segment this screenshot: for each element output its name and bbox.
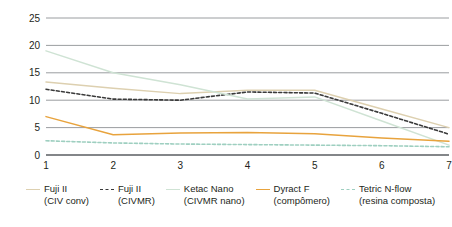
legend-label-line1: Dyract F — [274, 183, 310, 194]
legend-item-0[interactable]: Fuji II(CIV conv) — [26, 183, 89, 206]
y-tick-label-10: 10 — [29, 95, 41, 106]
x-tick-label-2: 2 — [110, 160, 116, 170]
legend-label-line1: Tetric N-flow — [359, 183, 411, 194]
chart-legend: Fuji II(CIV conv)Fuji II(CIVMR)Ketac Nan… — [0, 183, 452, 227]
legend-label-line2: (resina composta) — [359, 195, 435, 207]
x-tick-label-7: 7 — [446, 160, 452, 170]
x-axis-tick-labels: 1234567 — [43, 160, 452, 170]
x-tick-label-5: 5 — [312, 160, 318, 170]
line-chart: 0510152025 1234567 Fuji II(CIV conv)Fuji… — [0, 0, 452, 227]
x-tick-label-3: 3 — [178, 160, 184, 170]
x-tick-label-6: 6 — [379, 160, 385, 170]
legend-swatch-icon — [166, 183, 180, 196]
legend-item-2[interactable]: Ketac Nano(CIVMR nano) — [166, 183, 245, 206]
y-tick-label-20: 20 — [29, 40, 41, 51]
legend-label: Ketac Nano(CIVMR nano) — [184, 183, 245, 206]
y-tick-label-15: 15 — [29, 67, 41, 78]
y-tick-label-0: 0 — [34, 150, 40, 161]
plot-svg: 0510152025 1234567 — [0, 0, 452, 170]
legend-item-3[interactable]: Dyract F(compômero) — [256, 183, 331, 206]
legend-label-line1: Fuji II — [44, 183, 67, 194]
legend-item-1[interactable]: Fuji II(CIVMR) — [100, 183, 155, 206]
gridlines — [46, 18, 449, 155]
series-line-3 — [46, 117, 449, 142]
series-line-2 — [46, 51, 449, 145]
legend-row: Fuji II(CIV conv)Fuji II(CIVMR)Ketac Nan… — [0, 183, 452, 206]
legend-swatch-icon — [341, 183, 355, 196]
legend-item-4[interactable]: Tetric N-flow(resina composta) — [341, 183, 435, 206]
legend-swatch-icon — [256, 183, 270, 196]
legend-label: Fuji II(CIVMR) — [118, 183, 155, 206]
legend-label-line2: (compômero) — [274, 195, 331, 207]
legend-label-line2: (CIVMR) — [118, 195, 155, 207]
legend-label: Tetric N-flow(resina composta) — [359, 183, 435, 206]
y-tick-label-5: 5 — [34, 122, 40, 133]
legend-label-line1: Ketac Nano — [184, 183, 234, 194]
legend-label-line2: (CIVMR nano) — [184, 195, 245, 207]
legend-label: Dyract F(compômero) — [274, 183, 331, 206]
x-tick-label-4: 4 — [245, 160, 251, 170]
plot-area: 0510152025 1234567 — [0, 0, 452, 170]
legend-swatch-icon — [26, 183, 40, 196]
series-line-0 — [46, 82, 449, 127]
y-tick-label-25: 25 — [29, 13, 41, 24]
x-tick-label-1: 1 — [43, 160, 49, 170]
legend-swatch-icon — [100, 183, 114, 196]
legend-label: Fuji II(CIV conv) — [44, 183, 89, 206]
series-lines — [46, 51, 449, 147]
y-axis-tick-labels: 0510152025 — [29, 13, 41, 161]
series-line-4 — [46, 141, 449, 147]
legend-label-line1: Fuji II — [118, 183, 141, 194]
legend-label-line2: (CIV conv) — [44, 195, 89, 207]
